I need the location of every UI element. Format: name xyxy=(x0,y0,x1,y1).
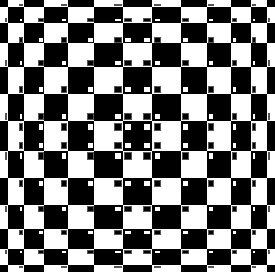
checker-cell xyxy=(231,23,252,44)
checker-cell xyxy=(24,249,45,265)
checker-cell xyxy=(152,178,181,205)
corner-square xyxy=(19,250,23,254)
checker-cell xyxy=(123,94,153,122)
checker-cell xyxy=(8,178,24,205)
corner-square xyxy=(208,142,214,150)
corner-square xyxy=(124,123,132,131)
checker-cell xyxy=(267,229,275,250)
corner-square xyxy=(5,230,7,235)
checker-cell xyxy=(44,94,68,122)
corner-square xyxy=(208,230,214,235)
checker-cell xyxy=(267,121,275,151)
corner-square xyxy=(208,250,214,254)
corner-square xyxy=(208,123,214,131)
checker-cell xyxy=(152,94,181,122)
corner-square xyxy=(268,113,270,120)
corner-square xyxy=(208,266,214,268)
checker-cell xyxy=(152,7,181,23)
checker-cell xyxy=(24,43,45,67)
corner-square xyxy=(208,60,214,66)
corner-square xyxy=(208,113,214,120)
corner-square xyxy=(252,18,256,22)
checker-cell xyxy=(94,265,123,272)
corner-square xyxy=(143,250,151,254)
corner-square xyxy=(154,37,161,42)
checker-cell xyxy=(8,23,24,44)
checker-cell xyxy=(68,151,95,179)
checker-cell xyxy=(44,178,68,205)
checker-cell xyxy=(0,265,8,272)
corner-square xyxy=(182,206,189,212)
corner-square xyxy=(87,266,94,268)
checker-cell xyxy=(207,43,231,67)
checker-cell xyxy=(8,249,24,265)
corner-square xyxy=(154,180,161,187)
corner-square xyxy=(143,86,151,93)
corner-square xyxy=(19,206,23,212)
corner-square xyxy=(182,152,189,159)
corner-square xyxy=(19,4,23,6)
checker-cell xyxy=(0,7,8,23)
corner-square xyxy=(38,266,43,268)
corner-square xyxy=(143,266,151,268)
corner-square xyxy=(114,123,121,131)
corner-square xyxy=(87,113,94,120)
checker-cell xyxy=(0,178,8,205)
checker-cell xyxy=(94,7,123,23)
corner-square xyxy=(268,250,270,254)
corner-square xyxy=(19,230,23,235)
corner-square xyxy=(208,86,214,93)
corner-square xyxy=(154,113,161,120)
checker-cell xyxy=(152,205,181,229)
corner-square xyxy=(143,142,151,150)
checker-cell xyxy=(68,7,95,23)
checker-cell xyxy=(207,265,231,272)
checker-cell xyxy=(24,121,45,151)
corner-square xyxy=(232,206,237,212)
corner-square xyxy=(268,37,270,42)
checker-cell xyxy=(152,265,181,272)
corner-square xyxy=(252,123,256,131)
checker-cell xyxy=(251,205,267,229)
corner-square xyxy=(87,250,94,254)
checker-cell xyxy=(152,121,181,151)
corner-square xyxy=(38,142,43,150)
checker-cell xyxy=(44,43,68,67)
corner-square xyxy=(38,37,43,42)
corner-square xyxy=(154,86,161,93)
corner-square xyxy=(124,37,132,42)
corner-square xyxy=(19,18,23,22)
corner-square xyxy=(87,230,94,235)
checker-cell xyxy=(123,265,153,272)
checker-cell xyxy=(24,94,45,122)
checker-cell xyxy=(123,7,153,23)
corner-square xyxy=(5,206,7,212)
corner-square xyxy=(154,60,161,66)
checker-cell xyxy=(0,43,8,67)
corner-square xyxy=(232,113,237,120)
corner-square xyxy=(268,230,270,235)
checker-cell xyxy=(8,67,24,94)
corner-square xyxy=(154,152,161,159)
corner-square xyxy=(232,18,237,22)
checker-cell xyxy=(251,249,267,265)
checker-cell xyxy=(44,7,68,23)
corner-square xyxy=(182,123,189,131)
corner-square xyxy=(208,180,214,187)
checker-cell xyxy=(68,67,95,94)
checker-cell xyxy=(267,151,275,179)
corner-square xyxy=(154,266,161,268)
checker-cell xyxy=(24,265,45,272)
checker-cell xyxy=(251,151,267,179)
corner-square xyxy=(124,4,132,6)
corner-square xyxy=(232,60,237,66)
checker-cell xyxy=(8,151,24,179)
corner-square xyxy=(87,152,94,159)
checker-cell xyxy=(181,43,208,67)
corner-square xyxy=(61,113,67,120)
checker-cell xyxy=(94,23,123,44)
corner-square xyxy=(252,142,256,150)
illusion-pattern xyxy=(0,0,275,272)
corner-square xyxy=(114,18,121,22)
checker-cell xyxy=(251,265,267,272)
